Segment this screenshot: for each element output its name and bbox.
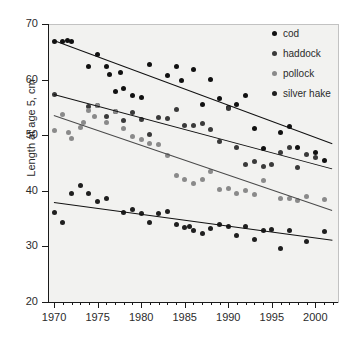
y-axis-label: Length at age 5, cm [25,33,37,223]
legend-label: haddock [283,46,321,61]
x-tick-minor [246,302,247,305]
data-point [104,120,109,125]
x-tick-label: 1980 [118,311,164,323]
x-tick-minor [176,302,177,305]
y-tick-label: 30 [0,240,38,251]
x-tick-minor [115,302,116,305]
x-tick-minor [307,302,308,305]
data-point [69,39,74,44]
data-point [191,228,196,233]
y-tick [42,135,48,136]
data-point [243,188,248,193]
data-point [226,186,231,191]
y-tick-label: 20 [0,296,38,307]
chart-figure: 203040506070 197019751980198519901995200… [0,0,353,345]
data-point [139,137,144,142]
x-tick-minor [202,302,203,305]
data-point [322,158,327,163]
data-point [66,130,71,135]
data-point [60,112,65,117]
x-tick-minor [132,302,133,305]
x-tick-minor [106,302,107,305]
x-tick-label: 2000 [292,311,338,323]
data-point [261,164,266,169]
data-point [174,173,179,178]
data-point [191,181,196,186]
data-point [191,67,196,72]
data-point [165,116,170,121]
x-tick-minor [167,302,168,305]
legend-marker-icon [272,51,277,56]
data-point [104,196,109,201]
x-tick-major [141,302,142,308]
legend-marker-icon [272,91,277,96]
data-point [52,128,57,133]
x-tick-minor [254,302,255,305]
y-axis-line [48,24,49,302]
legend-marker-icon [272,31,277,36]
x-tick-minor [298,302,299,305]
data-point [113,89,118,94]
data-point [118,70,123,75]
data-point [174,222,179,227]
x-tick-major [315,302,316,308]
x-tick-minor [263,302,264,305]
panel-top-edge [48,24,339,25]
data-point [107,72,112,77]
x-tick-minor [89,302,90,305]
data-point [278,196,283,201]
data-point [78,183,83,188]
legend-label: silver hake [283,86,331,101]
x-tick-major [272,302,273,308]
y-tick [42,24,48,25]
data-point [322,197,327,202]
data-point [261,178,266,183]
data-point [174,107,179,112]
x-tick-minor [333,302,334,305]
data-point [52,210,57,215]
x-tick-minor [193,302,194,305]
data-point [182,123,187,128]
x-tick-label: 1975 [75,311,121,323]
data-point [179,78,184,83]
x-tick-minor [211,302,212,305]
x-tick-major [54,302,55,308]
data-point [165,73,170,78]
x-tick-minor [324,302,325,305]
legend-label: pollock [283,66,314,81]
data-point [217,187,222,192]
x-tick-minor [289,302,290,305]
legend-marker-icon [272,71,277,76]
data-point [322,229,327,234]
data-point [156,115,161,120]
data-point [200,102,205,107]
x-tick-minor [72,302,73,305]
data-point [252,159,257,164]
x-tick-label: 1995 [249,311,295,323]
x-tick-minor [159,302,160,305]
x-tick-minor [63,302,64,305]
data-point [69,136,74,141]
x-tick-minor [150,302,151,305]
x-tick-label: 1985 [162,311,208,323]
x-tick-major [185,302,186,308]
data-point [130,93,135,98]
data-point [92,114,97,119]
x-tick-major [228,302,229,308]
data-point [243,162,248,167]
legend-label: cod [283,26,299,41]
data-point [208,127,213,132]
data-point [174,64,179,69]
data-point [165,209,170,214]
data-point [200,121,205,126]
panel-right-edge [338,24,339,302]
x-tick-major [98,302,99,308]
y-tick [42,302,48,303]
data-point [304,194,309,199]
y-tick [42,246,48,247]
data-point [200,231,205,236]
data-point [200,177,205,182]
data-point [252,126,257,131]
x-tick-minor [124,302,125,305]
x-tick-minor [220,302,221,305]
